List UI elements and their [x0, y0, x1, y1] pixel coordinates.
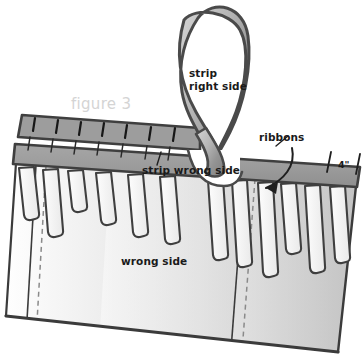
ribbons-label: ribbons: [259, 131, 304, 143]
ribbon-slot: [68, 170, 87, 212]
figure-diagram-root: 4" figure 3 strip right side strip wrong…: [0, 0, 364, 364]
figure-3-illustration: 4" figure 3 strip right side strip wrong…: [0, 0, 364, 364]
strip-right-side-label-line1: strip: [189, 67, 217, 79]
figure-caption: figure 3: [71, 95, 131, 113]
strip-wrong-side-label: strip wrong side: [142, 164, 240, 176]
wrong-side-label: wrong side: [121, 255, 187, 267]
measurement-label: 4": [338, 159, 350, 170]
strip-right-side-label-line2: right side: [189, 80, 247, 92]
